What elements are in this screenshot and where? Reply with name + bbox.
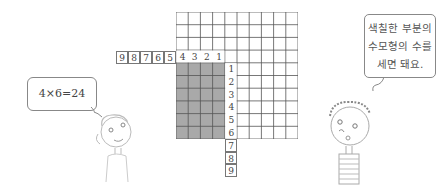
h-label: 3	[189, 51, 201, 64]
v-label: 9	[225, 164, 237, 177]
v-label: 6	[225, 127, 237, 140]
h-label: 1	[213, 51, 225, 64]
right-speech-line: 세면 돼요.	[365, 55, 435, 73]
right-speech-line: 색칠한 부분의	[365, 19, 435, 37]
h-label: 9	[116, 51, 128, 64]
v-label: 5	[225, 114, 237, 127]
right-bubble-tail-icon	[370, 76, 390, 92]
h-label: 2	[201, 51, 213, 64]
v-label: 8	[225, 152, 237, 165]
left-speech-bubble: 4×6=24	[27, 77, 97, 111]
v-label: 1	[225, 63, 237, 76]
right-speech-bubble: 색칠한 부분의 수모형의 수를 세면 돼요.	[364, 14, 436, 78]
h-label: 4	[177, 51, 189, 64]
h-label: 5	[164, 51, 176, 64]
left-speech-text: 4×6=24	[39, 87, 85, 100]
h-label: 7	[140, 51, 152, 64]
v-label: 3	[225, 89, 237, 102]
v-label: 2	[225, 76, 237, 89]
v-label: 7	[225, 139, 237, 152]
boy-character-icon	[322, 98, 378, 190]
v-label: 4	[225, 101, 237, 114]
h-label: 6	[152, 51, 164, 64]
right-speech-line: 수모형의 수를	[365, 37, 435, 55]
girl-character-icon	[92, 112, 140, 184]
h-label: 8	[128, 51, 140, 64]
